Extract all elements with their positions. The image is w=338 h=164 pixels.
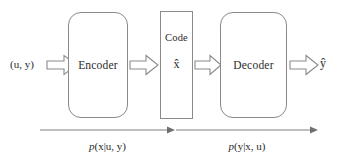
- encoder-to-code-block-arrow-icon: [129, 54, 159, 76]
- code-node: Code x̂: [160, 11, 193, 119]
- output-block-arrow-icon: [289, 54, 319, 76]
- output-label: ŷ: [320, 56, 326, 71]
- code-to-decoder-block-arrow-icon: [194, 54, 222, 76]
- code-node-title: Code: [165, 32, 188, 44]
- encode-flow-arrow-icon: [40, 124, 175, 136]
- decoder-node: Decoder: [220, 12, 287, 118]
- input-label: (u, y): [10, 58, 34, 70]
- decode-flow-label-expr: (y|x, u): [234, 140, 266, 152]
- diagram-canvas: (u, y) Encoder Code x̂ Decoder ŷ: [0, 0, 338, 164]
- encode-flow-label-expr: (x|u, y): [94, 140, 126, 152]
- decode-flow-label: p(y|x, u): [176, 140, 318, 152]
- encode-flow-label: p(x|u, y): [40, 140, 175, 152]
- encoder-node: Encoder: [68, 12, 128, 118]
- decode-flow-arrow-icon: [176, 124, 318, 136]
- code-node-symbol: x̂: [173, 58, 179, 71]
- encoder-node-label: Encoder: [78, 59, 118, 72]
- decoder-node-label: Decoder: [233, 59, 273, 72]
